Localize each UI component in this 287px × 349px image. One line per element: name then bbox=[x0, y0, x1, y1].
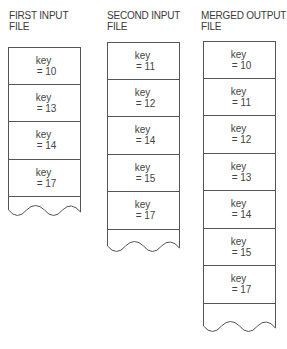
record-key-label: key bbox=[231, 123, 247, 134]
record-key-value: = 15 bbox=[136, 173, 156, 184]
file-continuation-wavy-edge bbox=[107, 230, 180, 258]
record-key-value: = 12 bbox=[232, 134, 252, 145]
record-cell: key= 10 bbox=[203, 41, 276, 79]
record-cell: key= 12 bbox=[203, 116, 276, 154]
record-cell: key= 13 bbox=[203, 154, 276, 192]
record-key-label: key bbox=[231, 273, 247, 284]
record-cell: key= 17 bbox=[107, 192, 180, 230]
record-cell: key= 12 bbox=[107, 80, 180, 118]
record-cell: key= 14 bbox=[203, 191, 276, 229]
record-key-value: = 17 bbox=[232, 284, 252, 295]
record-key-value: = 14 bbox=[136, 135, 156, 146]
record-key-value: = 17 bbox=[37, 178, 57, 189]
record-key-label: key bbox=[135, 50, 151, 61]
record-key-value: = 15 bbox=[232, 247, 252, 258]
file-continuation-wavy-edge bbox=[8, 197, 81, 221]
record-key-value: = 17 bbox=[136, 210, 156, 221]
merged-output-file: key= 10 key= 11 key= 12 key= 13 key= 14 … bbox=[203, 41, 276, 304]
record-key-label: key bbox=[231, 86, 247, 97]
record-key-value: = 11 bbox=[232, 97, 251, 108]
record-key-value: = 10 bbox=[232, 60, 252, 71]
record-key-value: = 11 bbox=[136, 61, 155, 72]
record-key-value: = 10 bbox=[37, 66, 57, 77]
record-key-value: = 12 bbox=[136, 98, 156, 109]
title-line: FILE bbox=[9, 21, 68, 32]
title-line: MERGED OUTPUT bbox=[201, 10, 286, 21]
record-key-label: key bbox=[231, 236, 247, 247]
second-input-file-title: SECOND INPUT FILE bbox=[107, 10, 180, 32]
record-cell: key= 15 bbox=[203, 229, 276, 267]
title-line: SECOND INPUT bbox=[107, 10, 180, 21]
record-key-label: key bbox=[36, 55, 52, 66]
record-key-label: key bbox=[36, 167, 52, 178]
record-key-label: key bbox=[135, 199, 151, 210]
record-key-label: key bbox=[231, 49, 247, 60]
record-cell: key= 11 bbox=[203, 79, 276, 117]
record-key-value: = 13 bbox=[37, 103, 57, 114]
record-key-label: key bbox=[231, 198, 247, 209]
first-input-file-title: FIRST INPUT FILE bbox=[9, 10, 68, 32]
merged-output-file-title: MERGED OUTPUT FILE bbox=[201, 10, 286, 32]
record-cell: key= 13 bbox=[8, 85, 81, 123]
record-key-label: key bbox=[36, 129, 52, 140]
record-cell: key= 11 bbox=[107, 42, 180, 80]
record-cell: key= 14 bbox=[8, 122, 81, 160]
record-key-value: = 14 bbox=[232, 209, 252, 220]
second-input-file: key= 11 key= 12 key= 14 key= 15 key= 17 bbox=[107, 42, 180, 230]
title-line: FILE bbox=[201, 21, 286, 32]
record-key-value: = 14 bbox=[37, 140, 57, 151]
record-cell: key= 14 bbox=[107, 117, 180, 155]
record-key-label: key bbox=[135, 124, 151, 135]
record-key-label: key bbox=[135, 162, 151, 173]
record-cell: key= 10 bbox=[8, 47, 81, 85]
record-key-label: key bbox=[36, 92, 52, 103]
record-key-label: key bbox=[135, 87, 151, 98]
record-key-value: = 13 bbox=[232, 172, 252, 183]
record-cell: key= 17 bbox=[203, 266, 276, 304]
file-continuation-wavy-edge bbox=[203, 304, 276, 340]
title-line: FIRST INPUT bbox=[9, 10, 68, 21]
title-line: FILE bbox=[107, 21, 180, 32]
first-input-file: key= 10 key= 13 key= 14 key= 17 bbox=[8, 47, 81, 197]
record-key-label: key bbox=[231, 161, 247, 172]
record-cell: key= 15 bbox=[107, 155, 180, 193]
record-cell: key= 17 bbox=[8, 160, 81, 198]
